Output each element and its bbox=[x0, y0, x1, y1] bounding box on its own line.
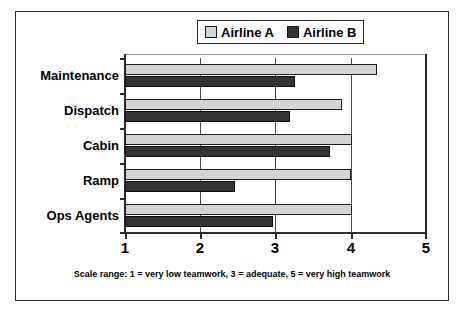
legend-swatch-icon-airline-a bbox=[205, 26, 217, 38]
plot-top-edge bbox=[125, 54, 426, 55]
legend-label-airline-b: Airline B bbox=[303, 26, 356, 39]
chart-caption: Scale range: 1 = very low teamwork, 3 = … bbox=[15, 270, 449, 280]
bar-ops-agents-airline-a bbox=[125, 204, 352, 215]
bar-group-ops-agents bbox=[125, 198, 426, 233]
plot-area bbox=[125, 58, 426, 233]
category-label-ramp: Ramp bbox=[83, 174, 119, 187]
bar-ramp-airline-a bbox=[125, 169, 351, 180]
bar-maintenance-airline-a bbox=[125, 64, 377, 75]
bar-ops-agents-airline-b bbox=[125, 216, 273, 227]
x-axis-label-1: 1 bbox=[121, 240, 129, 255]
bar-cabin-airline-b bbox=[125, 146, 330, 157]
legend-item-airline-b: Airline B bbox=[287, 26, 356, 39]
bar-group-cabin bbox=[125, 128, 426, 163]
category-label-cabin: Cabin bbox=[83, 139, 119, 152]
bar-cabin-airline-a bbox=[125, 134, 352, 145]
bar-group-dispatch bbox=[125, 93, 426, 128]
bar-maintenance-airline-b bbox=[125, 76, 295, 87]
bar-group-maintenance bbox=[125, 58, 426, 93]
category-axis-labels: Maintenance Dispatch Cabin Ramp Ops Agen… bbox=[18, 58, 119, 233]
x-axis-labels: 1 2 3 4 5 bbox=[125, 240, 426, 260]
bar-ramp-airline-b bbox=[125, 181, 235, 192]
category-label-ops-agents: Ops Agents bbox=[47, 209, 119, 222]
bar-dispatch-airline-a bbox=[125, 99, 342, 110]
legend-swatch-icon-airline-b bbox=[287, 26, 299, 38]
category-label-dispatch: Dispatch bbox=[64, 104, 119, 117]
category-label-maintenance: Maintenance bbox=[40, 69, 119, 82]
legend-item-airline-a: Airline A bbox=[205, 26, 274, 39]
x-axis-label-5: 5 bbox=[422, 240, 430, 255]
chart-page: Airline A Airline B Maintenance Dispatch… bbox=[0, 0, 464, 317]
x-axis-label-3: 3 bbox=[271, 240, 279, 255]
plot-area-wrapper bbox=[125, 58, 426, 233]
legend-label-airline-a: Airline A bbox=[221, 26, 274, 39]
chart-legend: Airline A Airline B bbox=[197, 20, 364, 44]
bar-dispatch-airline-b bbox=[125, 111, 290, 122]
x-axis-label-4: 4 bbox=[347, 240, 355, 255]
bar-group-ramp bbox=[125, 163, 426, 198]
x-axis-label-2: 2 bbox=[196, 240, 204, 255]
